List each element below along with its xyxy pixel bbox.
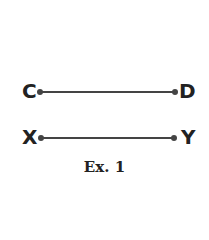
- point-label-y: Y: [181, 127, 195, 147]
- segment-xy: [38, 135, 177, 141]
- endpoint-y-dot: [171, 135, 177, 141]
- point-label-c: C: [22, 81, 37, 101]
- endpoint-d-dot: [172, 89, 178, 95]
- point-label-d: D: [179, 81, 196, 101]
- segment-cd: [37, 89, 178, 95]
- figure-caption: Ex. 1: [0, 158, 209, 176]
- point-label-x: X: [22, 127, 37, 147]
- endpoint-c-dot: [37, 89, 43, 95]
- endpoint-x-dot: [38, 135, 44, 141]
